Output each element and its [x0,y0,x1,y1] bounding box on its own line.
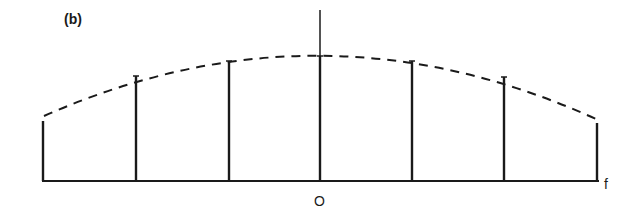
panel-label: (b) [64,11,82,27]
line-spectrum-diagram: (b) O f [0,0,634,218]
origin-label: O [314,193,325,209]
frequency-axis-label: f [604,176,608,192]
spectral-lines [43,56,597,181]
